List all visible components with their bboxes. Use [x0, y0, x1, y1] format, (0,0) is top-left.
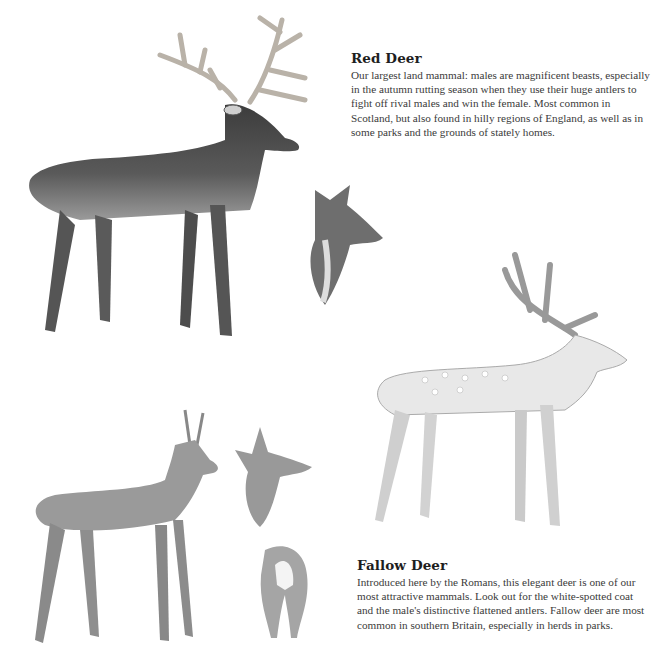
- fallow-deer-section: Fallow Deer Introduced here by the Roman…: [357, 557, 652, 632]
- red-deer-title: Red Deer: [351, 50, 651, 66]
- roe-deer-buck-illustration: [25, 405, 225, 650]
- red-deer-description: Our largest land mammal: males are magni…: [351, 68, 651, 139]
- roe-deer-doe-head-illustration: [230, 422, 320, 532]
- roe-deer-rump-illustration: [255, 540, 315, 640]
- fallow-deer-title: Fallow Deer: [357, 557, 652, 573]
- red-deer-stag-illustration: [20, 10, 320, 350]
- fallow-deer-description: Introduced here by the Romans, this eleg…: [357, 575, 652, 632]
- fallow-deer-buck-illustration: [365, 250, 635, 535]
- red-deer-section: Red Deer Our largest land mammal: males …: [351, 50, 651, 139]
